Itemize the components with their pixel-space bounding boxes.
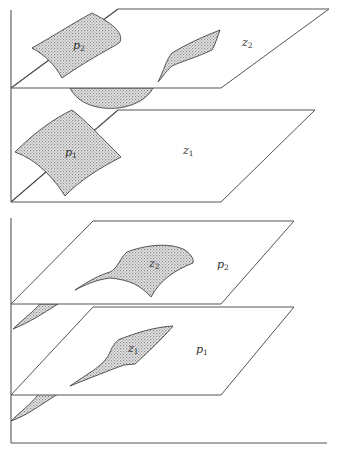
bottom-lower-wedge [11,394,58,421]
bottom-middle-wedge [13,304,58,329]
panel-top: p2 z2 p1 z1 [11,9,329,202]
figure: p2 z2 p1 z1 z2 p2 [0,0,338,453]
top-hanging-surface [70,88,153,108]
panel-bottom: z2 p2 z1 p1 [11,218,327,443]
bottom-lower-plane-p1 [11,307,294,395]
